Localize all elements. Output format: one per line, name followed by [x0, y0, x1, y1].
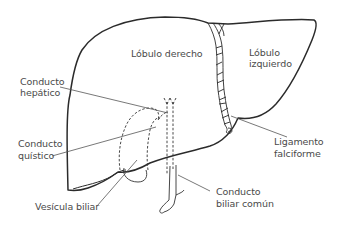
label-ligamento-falciforme-line1: Ligamento: [274, 136, 324, 147]
label-conducto-hepatico-line1: Conducto: [20, 76, 64, 87]
label-conducto-biliar-comun-line1: Conducto: [216, 186, 260, 197]
gallbladder: [119, 98, 176, 175]
falciform-ligament: [208, 23, 232, 133]
label-lobulo-izquierdo-line1: Lóbulo: [249, 47, 280, 58]
label-conducto-hepatico-line2: hepático: [20, 87, 60, 98]
label-conducto-quistico-line1: Conducto: [18, 138, 62, 149]
liver-diagram: Lóbulo derecho Lóbulo izquierdo Conducto…: [0, 0, 338, 233]
label-lobulo-derecho: Lóbulo derecho: [131, 48, 203, 59]
label-ligamento-falciforme-line2: falciforme: [274, 148, 321, 159]
label-conducto-biliar-comun-line2: biliar común: [216, 198, 274, 209]
label-vesicula-biliar: Vesícula biliar: [35, 201, 99, 212]
leader-biliar-comun: [178, 175, 210, 191]
common-bile-duct: [160, 165, 184, 213]
liver-illustration: [0, 0, 338, 233]
label-lobulo-izquierdo-line2: izquierdo: [249, 58, 292, 69]
label-conducto-quistico-line2: quístico: [18, 150, 54, 161]
liver-lower-edge: [73, 170, 126, 189]
liver-outline: [67, 17, 316, 190]
leader-ligamento: [231, 116, 287, 137]
leader-conducto-hepatico: [60, 87, 168, 113]
leader-vesicula: [97, 160, 137, 206]
